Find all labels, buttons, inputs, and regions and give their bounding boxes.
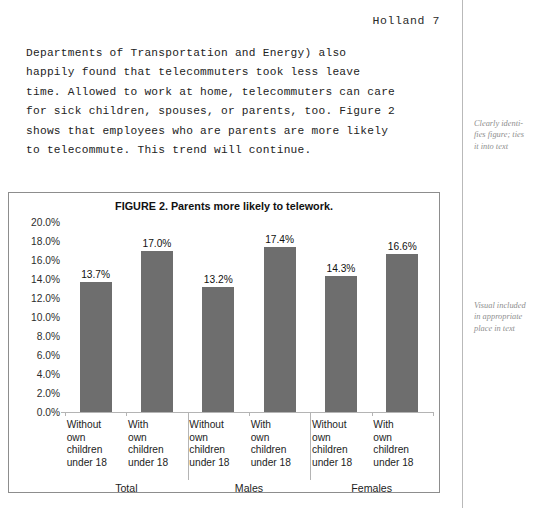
bar-value-label: 13.2% — [204, 274, 233, 285]
running-head: Holland 7 — [372, 14, 440, 27]
y-axis-tick-label: 8.0% — [37, 331, 60, 342]
bar — [202, 287, 234, 412]
margin-annotation-figure-reference: Clearly identi- fies figure; ties it int… — [474, 118, 540, 152]
y-axis-tick-label: 4.0% — [37, 369, 60, 380]
bar-value-label: 14.3% — [327, 263, 356, 274]
x-axis-category-label: Without own children under 18 — [312, 419, 370, 469]
bar — [141, 251, 173, 413]
y-axis-tick-label: 6.0% — [37, 350, 60, 361]
x-axis-tick — [249, 412, 250, 416]
y-axis-tick-label: 12.0% — [31, 293, 60, 304]
x-axis-group-separator — [310, 416, 311, 480]
margin-divider — [462, 0, 463, 508]
y-axis-tick-label: 18.0% — [31, 236, 60, 247]
bar-slot: 16.6%With own children under 18 — [372, 222, 433, 412]
y-axis-tick-label: 16.0% — [31, 255, 60, 266]
bar-chart-plot-area: 20.0%18.0%16.0%14.0%12.0%10.0%8.0%6.0%4.… — [65, 222, 433, 412]
figure-container: FIGURE 2. Parents more likely to telewor… — [8, 192, 440, 493]
bar — [386, 254, 418, 412]
y-axis-tick-label: 0.0% — [37, 407, 60, 418]
bar-value-label: 17.4% — [265, 234, 294, 245]
y-axis-tick-label: 10.0% — [31, 312, 60, 323]
bar-value-label: 16.6% — [388, 241, 417, 252]
document-page: Holland 7 Departments of Transportation … — [0, 0, 462, 508]
y-axis-tick-label: 20.0% — [31, 217, 60, 228]
x-axis-tick — [372, 412, 373, 416]
x-axis-group-label: Total — [115, 482, 137, 494]
bar-slot: 13.2%Without own children under 18 — [188, 222, 249, 412]
x-axis-group-label: Males — [235, 482, 263, 494]
bar-slot: 17.4%With own children under 18 — [249, 222, 310, 412]
bar-value-label: 17.0% — [143, 238, 172, 249]
body-paragraph: Departments of Transportation and Energy… — [26, 44, 441, 160]
bar-value-label: 13.7% — [81, 269, 110, 280]
bar-slot: 14.3%Without own children under 18 — [310, 222, 371, 412]
y-axis-tick-label: 2.0% — [37, 388, 60, 399]
bar-slot: 13.7%Without own children under 18 — [65, 222, 126, 412]
y-axis-tick-label: 14.0% — [31, 274, 60, 285]
bar — [325, 276, 357, 412]
x-axis-category-label: Without own children under 18 — [67, 419, 125, 469]
bar-slot: 17.0%With own children under 18 — [126, 222, 187, 412]
x-axis-category-label: With own children under 18 — [128, 419, 186, 469]
x-axis-category-label: Without own children under 18 — [189, 419, 247, 469]
x-axis-tick — [65, 412, 66, 416]
x-axis-tick — [126, 412, 127, 416]
bar — [264, 247, 296, 412]
x-axis-category-label: With own children under 18 — [373, 419, 431, 469]
x-axis-group-label: Females — [351, 482, 392, 494]
margin-annotation-visual-placement: Visual included in appropriate place in … — [474, 300, 540, 334]
figure-title: FIGURE 2. Parents more likely to telewor… — [9, 200, 439, 212]
x-axis-group-separator — [188, 416, 189, 480]
x-axis-tick — [433, 412, 434, 416]
x-axis-category-label: With own children under 18 — [251, 419, 309, 469]
bar — [80, 282, 112, 412]
x-axis-line — [61, 412, 433, 413]
